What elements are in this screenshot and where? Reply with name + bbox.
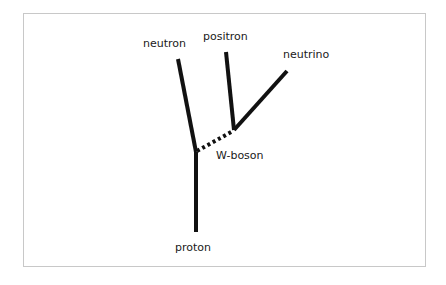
positron-line (226, 52, 234, 130)
neutron-line (178, 59, 196, 152)
neutron-label: neutron (143, 38, 186, 50)
w-boson-label: W-boson (216, 150, 264, 162)
neutrino-label: neutrino (283, 49, 329, 61)
proton-label: proton (175, 242, 211, 254)
w-boson-line (197, 131, 233, 151)
positron-label: positron (203, 31, 248, 43)
neutrino-line (234, 71, 287, 130)
